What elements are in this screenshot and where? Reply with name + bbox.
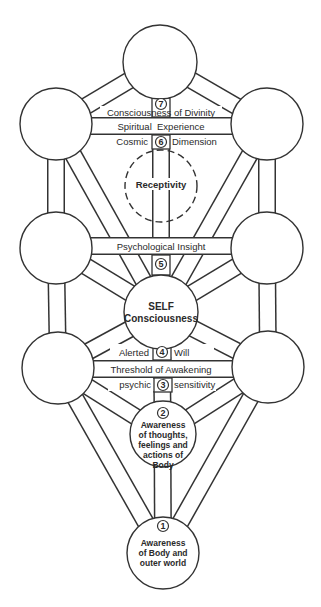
circle-self [124, 275, 198, 349]
label-receptivity: Receptivity [136, 179, 187, 190]
circle2-line2: of thoughts, [138, 430, 187, 440]
label-consciousness-of-divinity: Consciousness of Divinity [107, 107, 215, 118]
tree-of-life-diagram: 7 6 5 4 3 2 1 Consciousness of Divinity … [0, 0, 321, 607]
label-self: SELF [148, 301, 174, 312]
label-will: Will [174, 347, 189, 358]
label-consciousness: Consciousness [124, 313, 198, 324]
label-spiritual-experience: Spiritual Experience [117, 121, 204, 132]
number-1: 1 [160, 521, 165, 531]
circle-middle-left [20, 212, 92, 284]
circle2-line4: actions of [143, 450, 183, 460]
circle-upper-right [231, 88, 303, 160]
number-2: 2 [160, 408, 165, 418]
circle-middle-right [231, 212, 303, 284]
label-alerted: Alerted [119, 347, 149, 358]
number-5: 5 [158, 259, 163, 269]
circle-top [123, 25, 197, 99]
circle1-line1: Awareness [141, 538, 186, 548]
label-cosmic: Cosmic [116, 136, 148, 147]
label-dimension: Dimension [172, 136, 217, 147]
label-psychic: psychic [119, 379, 151, 390]
circle1-line3: outer world [140, 558, 186, 568]
label-threshold-of-awakening: Threshold of Awakening [110, 364, 211, 375]
number-4: 4 [159, 347, 164, 357]
circle2-line1: Awareness [141, 420, 186, 430]
circle-upper-left [20, 88, 92, 160]
circle-lower-left [22, 332, 94, 404]
label-sensitivity: sensitivity [174, 379, 215, 390]
circle1-line2: of Body and [138, 548, 187, 558]
number-6: 6 [158, 137, 163, 147]
number-3: 3 [160, 380, 165, 390]
circle-lower-right [232, 331, 304, 403]
label-psychological-insight: Psychological Insight [117, 241, 206, 252]
circle2-line5: Body [152, 460, 174, 470]
circle2-line3: feelings and [138, 440, 188, 450]
